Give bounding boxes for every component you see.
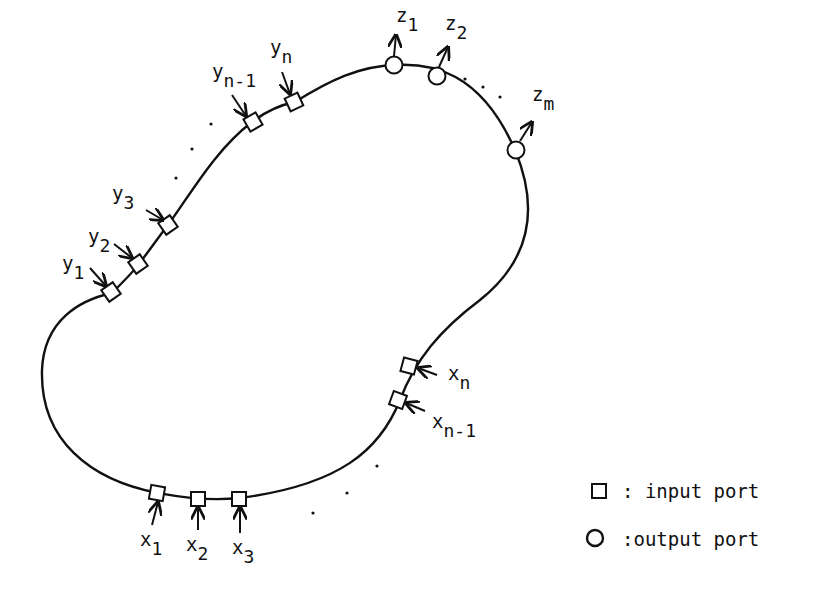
label-x3: x3 [232,538,254,566]
label-z2: z2 [445,14,467,42]
legend-square-icon [592,484,606,498]
label-yn-1: yn-1 [212,62,256,90]
input-port-x2 [191,492,205,506]
label-x1: x1 [140,530,162,558]
diagram-graphics [0,0,826,593]
label-xn-1: xn-1 [432,412,476,440]
label-z1: z1 [396,6,418,34]
label-x2: x2 [186,535,208,563]
legend-input-label: : input port [622,480,759,502]
label-zm: zm [532,85,554,113]
system-port-diagram: y1 y2 y3 yn-1 yn z1 z2 zm xn xn-1 x1 x2 … [0,0,826,593]
output-port-zm [508,142,525,159]
input-port-xn-1 [389,391,407,409]
ellipsis-dots [174,77,501,514]
output-port-z1 [386,57,403,74]
label-xn: xn [448,364,470,392]
legend-output-label: :output port [622,528,759,550]
input-port-x3 [232,492,246,506]
input-port-x1 [149,485,165,501]
label-yn: yn [270,38,292,66]
legend-circle-icon [587,530,603,546]
input-port-xn [400,357,417,374]
label-y1: y1 [62,254,84,282]
input-port-yn [285,93,304,112]
label-y2: y2 [88,227,110,255]
label-y3: y3 [112,184,134,212]
output-port-z2 [429,68,446,85]
